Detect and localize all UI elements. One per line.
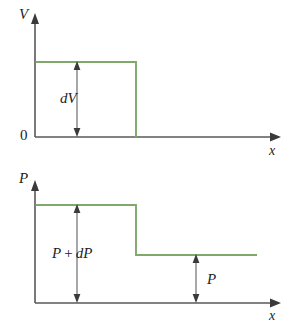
velocity-x-axis-arrowhead: [270, 133, 281, 142]
dv-dimension-label: dV: [60, 91, 77, 106]
pressure-plot-panel: P x P+dP P: [0, 166, 292, 332]
p-plus-dp-dimension-label: P+dP: [52, 246, 92, 261]
p-plus-dp-dimension-arrowhead-bottom: [74, 294, 81, 303]
dv-dimension-arrowhead-bottom: [74, 128, 81, 137]
pressure-plot-svg: [0, 166, 292, 332]
velocity-step-curve: [36, 62, 137, 137]
step-function-figure: V 0 x dV P x P+dP P: [0, 0, 292, 332]
p-plus-dp-operator: +: [61, 245, 75, 261]
pressure-y-axis-label: P: [19, 171, 28, 186]
velocity-y-axis-arrowhead: [31, 13, 39, 24]
velocity-plot-svg: [0, 0, 292, 166]
pressure-x-axis-arrowhead: [270, 299, 281, 308]
velocity-plot-panel: V 0 x dV: [0, 0, 292, 166]
pressure-x-axis-label: x: [269, 309, 275, 323]
velocity-y-axis-label: V: [19, 7, 28, 22]
p-plus-dp-term1: P: [52, 245, 61, 261]
p-dimension-label: P: [207, 272, 216, 287]
velocity-origin-label: 0: [20, 128, 28, 143]
p-plus-dp-term2: dP: [76, 245, 93, 261]
pressure-y-axis-arrowhead: [31, 180, 39, 191]
velocity-x-axis-label: x: [269, 144, 275, 158]
p-dimension-arrowhead-bottom: [193, 294, 200, 303]
